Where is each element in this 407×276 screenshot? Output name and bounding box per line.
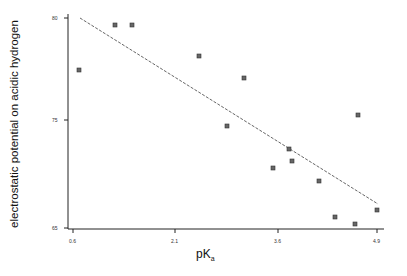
axes — [64, 14, 384, 233]
fit-line — [80, 18, 378, 204]
x-axis-label: pKa — [196, 247, 215, 262]
data-point — [197, 54, 201, 58]
data-points — [77, 23, 379, 226]
x-tick-label: 0.6 — [69, 238, 76, 244]
data-point — [317, 179, 321, 183]
x-tick-label: 4.9 — [373, 238, 380, 244]
scatter-chart: electrostatic potential on acidic hydrog… — [0, 0, 407, 276]
regression-line — [80, 18, 378, 204]
y-tick-label: 80 — [52, 15, 58, 21]
data-point — [375, 208, 379, 212]
data-point — [290, 159, 294, 163]
data-point — [77, 68, 81, 72]
data-point — [242, 76, 246, 80]
data-point — [287, 147, 291, 151]
data-point — [225, 124, 229, 128]
x-tick-label: 2.1 — [171, 238, 178, 244]
data-point — [353, 222, 357, 226]
data-point — [333, 215, 337, 219]
plot-area — [0, 0, 407, 276]
data-point — [271, 166, 275, 170]
y-tick-label: 65 — [52, 225, 58, 231]
data-point — [356, 113, 360, 117]
y-tick-label: 75 — [52, 117, 58, 123]
data-point — [113, 23, 117, 27]
data-point — [130, 23, 134, 27]
x-tick-label: 3.6 — [274, 238, 281, 244]
y-axis-label: electrostatic potential on acidic hydrog… — [8, 14, 20, 234]
